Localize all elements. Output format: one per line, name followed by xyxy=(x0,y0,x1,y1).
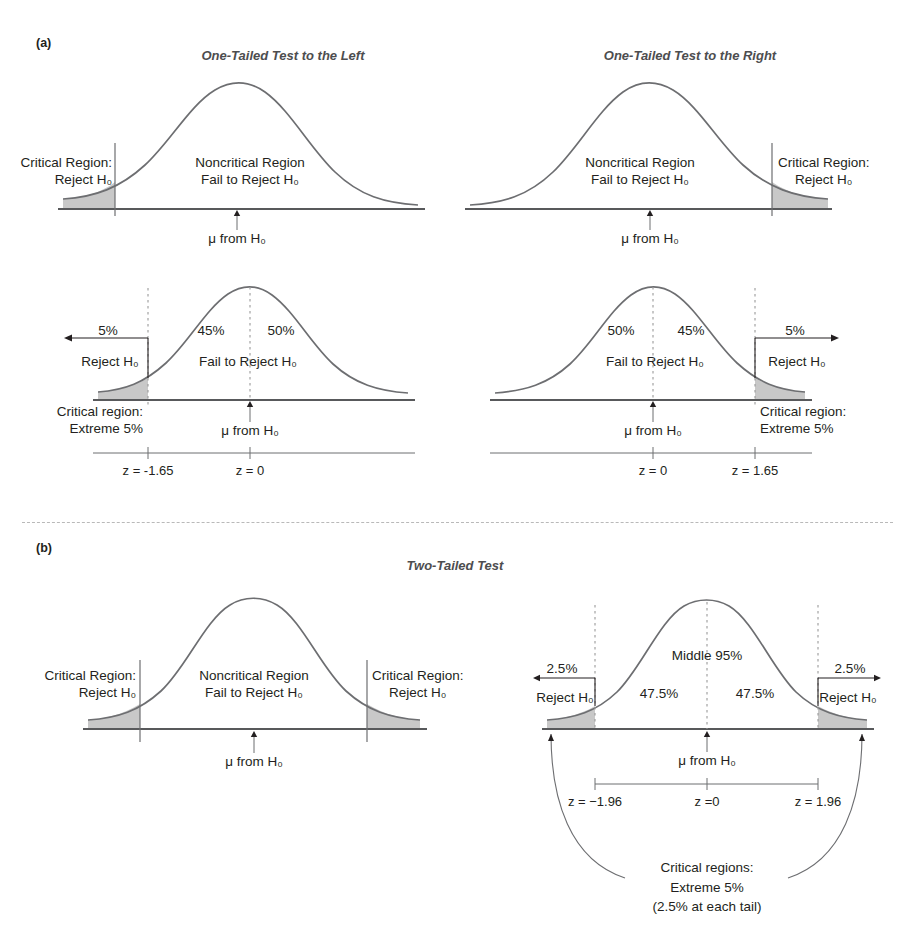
label-noncritical-region-b-left: Noncritical Region Fail to Reject H₀ xyxy=(199,668,309,702)
ztick-a-right-bottom-1: z = 1.65 xyxy=(732,463,779,478)
label-tail-pct-a-left-bottom: 5% xyxy=(98,323,118,340)
footnote-critical-regions-b-right: Critical regions: Extreme 5% (2.5% at ea… xyxy=(653,858,762,917)
label-mu-a-right-bottom: μ from H₀ xyxy=(624,423,682,440)
label-pct-right-b-right: 47.5% xyxy=(736,686,774,703)
label-tail-pct-right-b-right: 2.5% xyxy=(835,661,866,678)
label-pct-outer-a-right-bottom: 50% xyxy=(607,323,634,340)
label-critical-region-a-left-bottom: Critical region: Extreme 5% xyxy=(57,404,143,438)
label-pct-left-b-right: 47.5% xyxy=(640,686,678,703)
label-middle-95-b-right: Middle 95% xyxy=(672,648,743,665)
label-reject-a-right-bottom: Reject H₀ xyxy=(768,354,825,371)
ztick-b-right-2: z = 1.96 xyxy=(795,794,842,809)
label-reject-left-b-right: Reject H₀ xyxy=(536,690,593,707)
label-reject-a-left-bottom: Reject H₀ xyxy=(81,354,138,371)
label-noncritical-region-a-left-top: Noncritical Region Fail to Reject H₀ xyxy=(195,155,305,189)
figure-container: (a) One-Tailed Test to the Left Critical… xyxy=(0,0,911,940)
ztick-a-left-bottom-0: z = -1.65 xyxy=(123,463,174,478)
ztick-b-right-0: z = −1.96 xyxy=(568,794,622,809)
label-mu-a-left-top: μ from H₀ xyxy=(208,231,266,248)
label-critical-region-a-right-bottom: Critical region: Extreme 5% xyxy=(760,404,846,438)
ztick-b-right-1: z =0 xyxy=(695,794,720,809)
label-mu-a-right-top: μ from H₀ xyxy=(621,231,679,248)
panel-label-b: (b) xyxy=(36,541,52,555)
label-tail-pct-a-right-bottom: 5% xyxy=(785,323,805,340)
label-fail-to-reject-a-left-bottom: Fail to Reject H₀ xyxy=(199,354,297,371)
label-pct-inner-a-left-bottom: 45% xyxy=(197,323,224,340)
label-noncritical-region-a-right-top: Noncritical Region Fail to Reject H₀ xyxy=(585,155,695,189)
label-critical-region-left-b-left: Critical Region: Reject H₀ xyxy=(44,668,136,702)
label-critical-region-a-left-top: Critical Region: Reject H₀ xyxy=(20,155,112,189)
label-fail-to-reject-a-right-bottom: Fail to Reject H₀ xyxy=(606,354,704,371)
label-critical-region-a-right-top: Critical Region: Reject H₀ xyxy=(778,155,870,189)
chart-title-two-tailed: Two-Tailed Test xyxy=(407,558,504,573)
label-mu-b-right: μ from H₀ xyxy=(678,753,736,770)
label-mu-b-left: μ from H₀ xyxy=(225,754,283,771)
panel-label-a: (a) xyxy=(36,36,51,50)
chart-title-one-tailed-right: One-Tailed Test to the Right xyxy=(604,48,776,63)
panel-divider xyxy=(22,522,893,523)
label-pct-inner-a-right-bottom: 45% xyxy=(677,323,704,340)
label-critical-region-right-b-left: Critical Region: Reject H₀ xyxy=(372,668,464,702)
label-mu-a-left-bottom: μ from H₀ xyxy=(221,423,279,440)
chart-title-one-tailed-left: One-Tailed Test to the Left xyxy=(202,48,365,63)
ztick-a-right-bottom-0: z = 0 xyxy=(639,463,668,478)
label-pct-outer-a-left-bottom: 50% xyxy=(267,323,294,340)
ztick-a-left-bottom-1: z = 0 xyxy=(236,463,265,478)
label-reject-right-b-right: Reject H₀ xyxy=(819,690,876,707)
label-tail-pct-left-b-right: 2.5% xyxy=(547,661,578,678)
